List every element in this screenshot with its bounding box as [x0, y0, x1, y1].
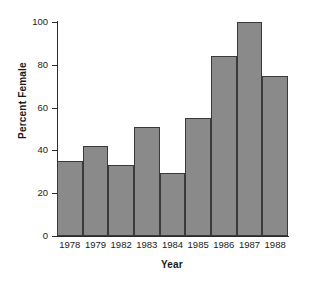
- x-axis-tick-label: 1987: [237, 240, 263, 250]
- bar: [83, 146, 109, 236]
- y-axis-tick-label: 100: [14, 17, 48, 27]
- bar: [134, 127, 160, 236]
- x-axis-tick-label: 1983: [134, 240, 160, 250]
- y-axis-tick-label: 0: [14, 231, 48, 241]
- bar: [108, 165, 134, 236]
- bar: [160, 173, 186, 236]
- y-axis-tick-label: 20: [14, 188, 48, 198]
- bar: [211, 56, 237, 236]
- x-axis-tick-label: 1978: [57, 240, 83, 250]
- bar: [185, 118, 211, 236]
- plot-area: [57, 22, 288, 236]
- x-axis-line: [57, 236, 289, 237]
- bar-chart: Percent Female 020406080100 197819791982…: [0, 0, 319, 281]
- x-axis-title: Year: [56, 259, 288, 270]
- bar: [237, 22, 263, 236]
- x-axis-tick-label: 1982: [108, 240, 134, 250]
- bar: [262, 76, 288, 237]
- bar: [57, 161, 83, 236]
- y-axis-tick-label: 40: [14, 145, 48, 155]
- y-axis-tick-label: 80: [14, 60, 48, 70]
- x-axis-tick-label: 1985: [185, 240, 211, 250]
- x-axis-tick-label: 1986: [211, 240, 237, 250]
- y-axis-tick-mark: [52, 236, 57, 237]
- x-axis-tick-label: 1984: [160, 240, 186, 250]
- x-axis-tick-label: 1979: [83, 240, 109, 250]
- x-axis-tick-label: 1988: [262, 240, 288, 250]
- y-axis-tick-label: 60: [14, 103, 48, 113]
